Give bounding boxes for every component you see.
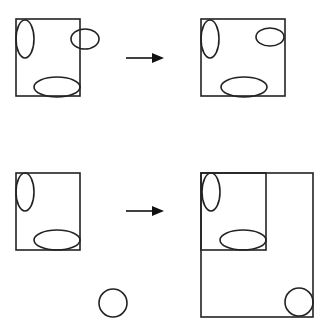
- row2-arrow: [126, 206, 164, 216]
- row2-before-outside-circle: [99, 289, 127, 317]
- layout-diagram: [0, 0, 331, 332]
- row2-arrow-head-icon: [152, 206, 164, 216]
- row2-after-expanded-container: [201, 173, 313, 317]
- row2-after-group: [201, 173, 313, 317]
- row2-after-tall-ellipse: [202, 173, 220, 211]
- row1-before-group: [16, 19, 99, 97]
- row2-before-wide-ellipse: [34, 230, 80, 250]
- row1-after-group: [201, 19, 285, 97]
- row2-after-circle: [285, 288, 313, 316]
- row1-before-wide-ellipse: [34, 77, 80, 97]
- row1-arrow: [126, 53, 164, 63]
- row1-before-overflowing-ellipse: [71, 29, 99, 49]
- row2-before-group: [16, 173, 127, 317]
- row1-arrow-head-icon: [152, 53, 164, 63]
- row2-after-wide-ellipse: [220, 230, 266, 250]
- row1-before-tall-ellipse: [16, 20, 34, 58]
- row1-after-fitted-ellipse: [256, 28, 284, 46]
- row1-after-wide-ellipse: [221, 77, 267, 97]
- row1-after-tall-ellipse: [201, 20, 219, 58]
- row2-before-tall-ellipse: [16, 173, 34, 211]
